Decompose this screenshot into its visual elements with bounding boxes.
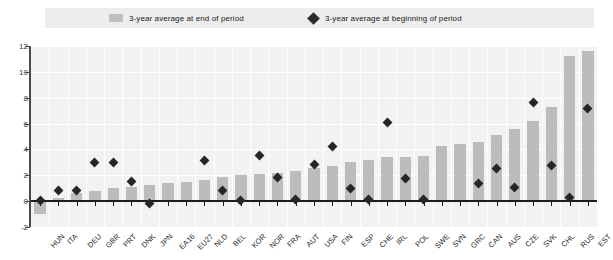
bar-svn <box>436 146 447 202</box>
y-axis-tick-label: 8 <box>24 93 28 102</box>
diamond-marker-icon <box>307 12 320 25</box>
x-axis-label-hun: HUN <box>49 232 67 250</box>
gridline-horizontal <box>31 72 597 73</box>
bar-rus <box>564 56 575 201</box>
x-axis-tick <box>351 202 352 206</box>
x-axis-tick <box>314 202 315 206</box>
legend-label-bar: 3-year average at end of period <box>129 14 244 23</box>
x-axis-label-can: CAN <box>487 232 505 250</box>
x-axis-label-prt: PRT <box>122 232 139 249</box>
x-axis-label-nld: NLD <box>213 232 230 249</box>
y-axis-tick-label: 12 <box>19 42 28 51</box>
x-axis-label-bel: BEL <box>231 232 247 248</box>
x-axis-label-nor: NOR <box>268 232 286 250</box>
x-axis-tick <box>77 202 78 206</box>
bar-ea16 <box>162 183 173 201</box>
bar-grc <box>454 144 465 201</box>
x-axis-label-usa: USA <box>323 232 340 249</box>
x-axis-label-gbr: GBR <box>104 232 122 250</box>
x-axis-label-svk: SVK <box>541 232 558 249</box>
x-axis-tick <box>515 202 516 206</box>
bar-svk <box>527 121 538 201</box>
x-axis-label-ea16: EA16 <box>177 232 196 251</box>
x-axis-tick <box>387 202 388 206</box>
gridline-horizontal <box>31 46 597 47</box>
x-axis-tick <box>442 202 443 206</box>
x-axis-tick <box>277 202 278 206</box>
y-axis-tick-label: 10 <box>19 67 28 76</box>
x-axis-tick <box>332 202 333 206</box>
x-axis-tick <box>478 202 479 206</box>
bar-est <box>582 51 593 201</box>
x-axis-label-grc: GRC <box>469 232 487 250</box>
bar-prt <box>108 188 119 202</box>
x-axis-tick <box>259 202 260 206</box>
x-axis-label-swe: SWE <box>433 232 451 250</box>
x-axis-tick <box>570 202 571 206</box>
x-axis-tick <box>460 202 461 206</box>
x-axis-tick <box>497 202 498 206</box>
x-axis-label-che: CHE <box>377 232 395 250</box>
x-axis-label-fin: FIN <box>340 232 355 247</box>
x-axis-tick <box>113 202 114 206</box>
x-axis-label-jpn: JPN <box>158 232 174 248</box>
bar-dnk <box>126 187 137 201</box>
x-axis-tick <box>204 202 205 206</box>
legend-label-diamond: 3-year average at beginning of period <box>325 14 462 23</box>
x-axis-tick <box>168 202 169 206</box>
x-axis-tick <box>405 202 406 206</box>
y-axis-tick-label: -2 <box>21 223 28 232</box>
bar-chl <box>546 107 557 201</box>
x-axis-tick <box>588 202 589 206</box>
bar-irl <box>381 157 392 201</box>
x-axis-label-aus: AUS <box>505 232 522 249</box>
bar-fin <box>327 166 338 201</box>
x-axis-tick <box>223 202 224 206</box>
x-axis-label-kor: KOR <box>250 232 268 250</box>
x-axis-label-svn: SVN <box>450 232 467 249</box>
bar-usa <box>308 168 319 201</box>
bar-nld <box>199 180 210 201</box>
x-axis-label-dnk: DNK <box>140 232 158 250</box>
x-axis-label-ita: ITA <box>66 232 80 246</box>
plot-frame: -2024681012 <box>31 46 597 227</box>
legend-item-diamond: 3-year average at beginning of period <box>307 8 462 28</box>
x-axis-label-cze: CZE <box>523 232 540 249</box>
x-axis-label-aut: AUT <box>304 232 321 249</box>
x-axis-label-fra: FRA <box>286 232 303 249</box>
chart-legend: 3-year average at end of period 3-year a… <box>45 8 594 28</box>
x-axis-tick <box>95 202 96 206</box>
bar-can <box>473 142 484 201</box>
x-axis-label-pol: POL <box>414 232 431 249</box>
y-axis-tick-label: 4 <box>24 145 28 154</box>
bar-swatch-icon <box>109 14 123 22</box>
x-axis-tick <box>533 202 534 206</box>
y-axis-tick-label: 0 <box>24 197 28 206</box>
bar-eu27 <box>181 182 192 201</box>
bar-esp <box>345 162 356 201</box>
legend-item-bar: 3-year average at end of period <box>109 8 244 28</box>
x-axis-tick <box>131 202 132 206</box>
x-axis-label-irl: IRL <box>394 232 409 247</box>
y-axis-tick-label: 2 <box>24 171 28 180</box>
y-axis-tick-label: 6 <box>24 119 28 128</box>
x-axis-label-est: EST <box>596 232 613 249</box>
bar-nor <box>254 174 265 201</box>
gridline-horizontal <box>31 124 597 125</box>
x-axis-tick <box>551 202 552 206</box>
x-axis-tick <box>58 202 59 206</box>
x-axis-label-esp: ESP <box>359 232 376 249</box>
x-axis-label-chl: CHL <box>560 232 577 249</box>
x-axis-label-rus: RUS <box>578 232 596 250</box>
x-axis-tick <box>186 202 187 206</box>
x-axis-label-deu: DEU <box>85 232 103 250</box>
gridline-horizontal <box>31 98 597 99</box>
